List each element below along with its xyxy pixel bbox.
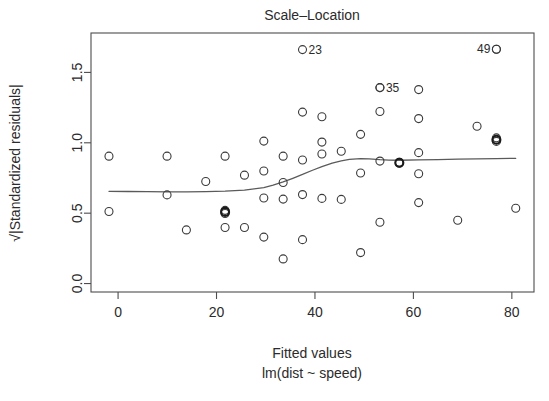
y-axis-title: √|Standardized residuals|: [7, 84, 23, 241]
y-axis-label: √|Standardized residuals|: [7, 84, 23, 241]
plot-canvas: Scale–Location 020406080 0.00.51.01.5 23…: [0, 0, 549, 401]
chart-title: Scale–Location: [264, 7, 360, 23]
outlier-label-23: 23: [309, 43, 323, 57]
x-tick-label: 20: [209, 304, 225, 320]
y-tick-label: 0.5: [69, 203, 85, 223]
x-tick-label: 60: [406, 304, 422, 320]
scale-location-plot: Scale–Location 020406080 0.00.51.01.5 23…: [0, 0, 549, 401]
outlier-label-49: 49: [477, 42, 491, 56]
x-axis-sublabel: lm(dist ~ speed): [262, 365, 362, 381]
x-tick-label: 80: [504, 304, 520, 320]
y-tick-label: 0.0: [69, 274, 85, 294]
plot-background: [0, 0, 549, 401]
x-axis-label: Fitted values: [272, 345, 351, 361]
outlier-label-35: 35: [386, 81, 400, 95]
x-tick-label: 0: [114, 304, 122, 320]
y-tick-label: 1.0: [69, 133, 85, 153]
y-tick-label: 1.5: [69, 62, 85, 82]
x-tick-label: 40: [307, 304, 323, 320]
